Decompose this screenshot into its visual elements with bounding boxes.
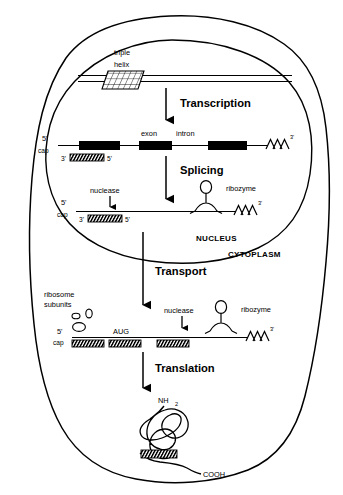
- triple-helix-label-line2: helix: [114, 60, 130, 69]
- protein-group: NH 2 COOH: [140, 396, 225, 479]
- pre-mrna-exon-3: [208, 141, 247, 150]
- protein-bound-oligo: [141, 450, 177, 458]
- intron-label: intron: [176, 129, 195, 138]
- dna-triple-helix-group: triple helix: [78, 48, 292, 89]
- cyto-antisense-oligo-1: [72, 340, 104, 347]
- splicing-step: Splicing: [166, 156, 224, 199]
- translation-label: Translation: [155, 362, 215, 374]
- spliced-oligo-3prime: 3': [79, 216, 84, 223]
- translation-step: Translation: [143, 352, 215, 388]
- pre-mrna-antisense-oligo: 3' 5': [61, 154, 112, 162]
- pre-mrna-exon-2: [139, 141, 172, 150]
- spliced-nuclease-label: nuclease: [90, 186, 120, 195]
- spliced-mrna-group: nuclease ribozyme 5' cap 3' 3' 5': [57, 181, 262, 223]
- cyto-mrna-5prime: 5': [57, 327, 63, 336]
- spliced-ribozyme-label: ribozyme: [226, 184, 256, 193]
- protein-n-terminus-label: NH: [158, 396, 169, 405]
- cyto-nuclease-label: nuclease: [164, 306, 194, 315]
- protein-c-terminus-label: COOH: [203, 470, 225, 479]
- spliced-mrna-poly-a-zigzag: [234, 206, 257, 216]
- cyto-mrna-poly-a-zigzag: [246, 332, 269, 342]
- nucleus-label: NUCLEUS: [196, 234, 237, 243]
- start-codon-label: AUG: [113, 327, 129, 336]
- pre-mrna-cap: cap: [38, 147, 49, 155]
- nuclear-envelope: [46, 40, 312, 263]
- exon-label: exon: [141, 129, 157, 138]
- ribosome-label-line2: subunits: [44, 300, 72, 309]
- pre-mrna-oligo-3prime: 3': [61, 155, 66, 162]
- triple-helix-block: [102, 71, 144, 89]
- spliced-mrna-3prime: 3': [258, 200, 262, 206]
- pre-mrna-5prime: 5': [42, 134, 48, 143]
- triple-helix-label-line1: triple: [114, 48, 130, 57]
- transcription-step: Transcription: [166, 88, 251, 120]
- spliced-oligo-5prime: 5': [125, 216, 130, 223]
- cytoplasm-label: CYTOPLASM: [228, 250, 281, 259]
- cyto-mrna-3prime: 3': [270, 326, 274, 332]
- spliced-mrna-cap: cap: [57, 211, 68, 219]
- transcription-label: Transcription: [180, 97, 251, 109]
- cyto-ribozyme-label: ribozyme: [241, 305, 271, 314]
- pre-mrna-exon-1: [79, 141, 120, 150]
- cyto-mrna-cap: cap: [53, 339, 64, 347]
- spliced-mrna-antisense-oligo: 3' 5': [79, 215, 130, 223]
- pre-mrna-3prime: 3': [290, 134, 294, 140]
- cytoplasmic-mrna-group: ribosome subunits nuclease ribozyme 5' c…: [44, 290, 274, 347]
- cyto-ribozyme: [205, 301, 237, 334]
- spliced-ribozyme: [190, 181, 222, 214]
- pre-mrna-oligo-5prime: 5': [107, 155, 112, 162]
- cell-membrane: [30, 16, 330, 483]
- transport-label: Transport: [155, 265, 207, 277]
- protein-n-terminus-subscript: 2: [175, 401, 178, 407]
- pre-mrna-poly-a-zigzag: [266, 140, 289, 150]
- spliced-mrna-5prime: 5': [61, 198, 67, 207]
- splicing-label: Splicing: [180, 164, 224, 176]
- cyto-antisense-oligo-3: [157, 340, 189, 347]
- ribosome-subunits: [72, 309, 92, 331]
- cyto-antisense-oligo-2: [109, 340, 141, 347]
- ribosome-label-line1: ribosome: [44, 290, 74, 299]
- gene-expression-diagram: triple helix Transcription exon intron 5…: [0, 0, 343, 495]
